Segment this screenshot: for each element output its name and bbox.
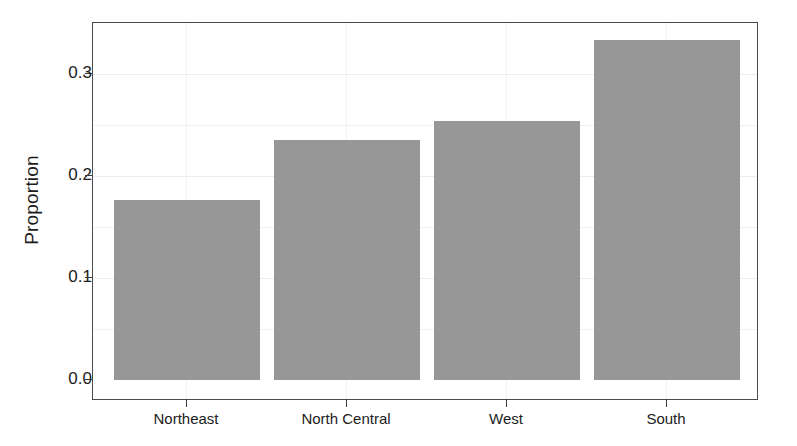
bar-south[interactable] [594, 40, 740, 380]
x-tick-mark-west [506, 400, 507, 407]
y-tick-mark-0.1 [85, 277, 92, 278]
x-tick-label-south: South [646, 410, 685, 427]
y-tick-mark-0.0 [85, 379, 92, 380]
x-tick-label-north-central: North Central [301, 410, 390, 427]
y-tick-mark-0.2 [85, 175, 92, 176]
y-tick-mark-0.3 [85, 73, 92, 74]
x-tick-mark-north-central [346, 400, 347, 407]
x-tick-label-west: West [489, 410, 523, 427]
x-tick-mark-northeast [186, 400, 187, 407]
x-tick-label-northeast: Northeast [153, 410, 218, 427]
bar-north-central[interactable] [274, 140, 420, 380]
plot-panel [92, 22, 758, 400]
bar-northeast[interactable] [114, 200, 260, 380]
y-axis-title: Proportion [14, 0, 50, 400]
bar-west[interactable] [434, 121, 580, 380]
x-tick-mark-south [666, 400, 667, 407]
y-axis-title-text: Proportion [21, 155, 43, 245]
bar-chart-figure: Proportion 0.3 0.2 0.1 0.0 Northeast Nor… [0, 0, 797, 446]
